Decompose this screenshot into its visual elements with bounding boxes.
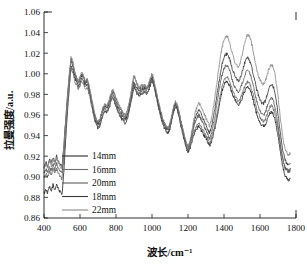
- legend-label-20mm: 20mm: [92, 178, 117, 188]
- plot-background: [44, 12, 296, 218]
- legend-label-14mm: 14mm: [92, 151, 117, 161]
- y-tick-label: 0.88: [24, 193, 40, 203]
- y-tick-label: 0.92: [24, 152, 40, 162]
- raman-spectrum-chart: 0.860.880.900.920.940.960.981.001.021.04…: [0, 0, 307, 268]
- x-tick-label: 1000: [143, 223, 162, 233]
- x-tick-label: 600: [73, 223, 87, 233]
- x-tick-label: 1400: [215, 223, 234, 233]
- x-tick-label: 1200: [179, 223, 198, 233]
- legend-label-16mm: 16mm: [92, 165, 117, 175]
- y-tick-label: 1.02: [24, 49, 40, 59]
- y-tick-label: 1.06: [24, 7, 40, 17]
- figure-container: 0.860.880.900.920.940.960.981.001.021.04…: [0, 0, 307, 268]
- x-tick-label: 1600: [251, 223, 270, 233]
- x-tick-label: 400: [37, 223, 51, 233]
- x-axis-title: 波长/cm⁻¹: [147, 246, 192, 258]
- legend-label-18mm: 18mm: [92, 192, 117, 202]
- y-axis-title: 拉曼强度/a.u.: [3, 90, 15, 150]
- y-tick-label: 1.00: [24, 69, 40, 79]
- y-tick-label: 0.94: [24, 131, 40, 141]
- legend-label-22mm: 22mm: [92, 205, 117, 215]
- y-tick-label: 1.04: [24, 28, 40, 38]
- y-tick-label: 0.98: [24, 90, 40, 100]
- x-tick-label: 1800: [287, 223, 306, 233]
- y-tick-label: 0.96: [24, 110, 40, 120]
- y-tick-label: 0.90: [24, 172, 40, 182]
- x-tick-label: 800: [109, 223, 123, 233]
- y-tick-label: 0.86: [24, 213, 40, 223]
